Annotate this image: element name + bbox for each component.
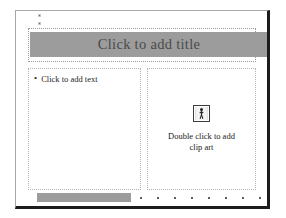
title-placeholder-prompt: Click to add title: [98, 36, 200, 53]
clipart-prompt-line-1: Double click to add: [168, 131, 235, 141]
horizontal-scrollbar[interactable]: [16, 192, 267, 206]
scrollbar-tick-dot: [140, 197, 142, 199]
text-placeholder[interactable]: • Click to add text: [28, 68, 141, 190]
scrollbar-tick-dot: [191, 197, 193, 199]
text-placeholder-prompt-row: • Click to add text: [34, 74, 136, 84]
slide-editor-frame: Click to add title • Click to add text: [15, 10, 270, 209]
scrollbar-thumb[interactable]: [37, 193, 131, 202]
clipart-placeholder[interactable]: Double click to add clip art: [147, 68, 256, 190]
scrollbar-tick-dot: [242, 197, 244, 199]
scanned-page: Click to add title • Click to add text: [0, 0, 286, 218]
title-placeholder-fill[interactable]: Click to add title: [30, 32, 267, 57]
clipart-placeholder-prompt: Double click to add clip art: [156, 131, 248, 153]
bullet-icon: •: [34, 74, 37, 83]
guide-tick-icon: [38, 22, 41, 25]
guide-tick-icon: [38, 14, 41, 17]
text-placeholder-prompt: Click to add text: [41, 74, 97, 84]
scrollbar-tick-dot: [259, 197, 261, 199]
scrollbar-tick-dot: [208, 197, 210, 199]
clip-art-person-icon[interactable]: [193, 105, 210, 122]
clipart-prompt-line-2: clip art: [190, 142, 214, 152]
scrollbar-tick-dot: [225, 197, 227, 199]
slide-canvas[interactable]: Click to add title • Click to add text: [16, 11, 267, 206]
scrollbar-tick-dot: [174, 197, 176, 199]
scrollbar-tick-dot: [157, 197, 159, 199]
